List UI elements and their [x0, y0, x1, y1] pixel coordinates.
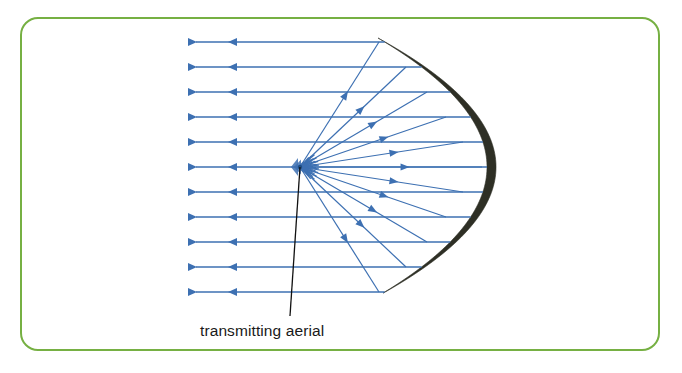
parallel-ray-arrowhead: [228, 288, 237, 296]
parallel-ray-arrowhead: [228, 38, 237, 46]
radial-ray: [300, 142, 463, 167]
figure-root: transmitting aerial: [0, 0, 682, 373]
parallel-ray-arrowhead: [228, 163, 237, 171]
parallel-ray-group: [196, 38, 487, 296]
radial-ray-arrowhead: [368, 118, 379, 129]
radial-ray-arrowhead: [368, 205, 379, 216]
radial-ray-arrowhead: [340, 89, 351, 100]
transmitting-aerial-label: transmitting aerial: [200, 322, 324, 339]
radial-ray-arrowhead: [340, 233, 351, 244]
parallel-ray-arrowhead: [228, 63, 237, 71]
parallel-ray-arrowhead: [228, 138, 237, 146]
radial-ray: [300, 42, 379, 167]
parallel-ray-arrowhead: [228, 238, 237, 246]
parallel-ray-arrowhead: [228, 113, 237, 121]
radial-ray: [300, 167, 463, 192]
parallel-ray-arrowhead: [228, 88, 237, 96]
parallel-ray-arrowhead: [228, 188, 237, 196]
ray-diagram-svg: transmitting aerial: [0, 0, 682, 373]
parallel-ray-arrowhead: [228, 263, 237, 271]
radial-ray: [300, 167, 379, 292]
parallel-ray-arrowhead: [228, 213, 237, 221]
